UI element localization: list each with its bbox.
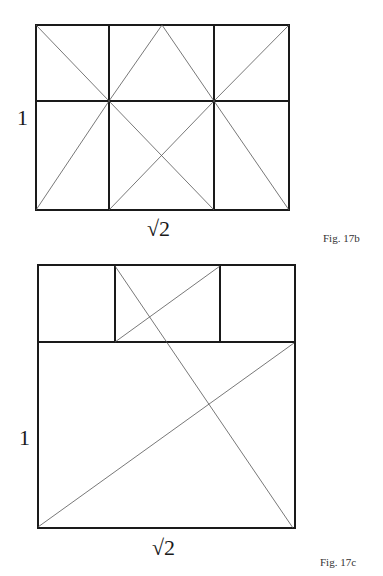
- diagonal-line: [115, 266, 220, 342]
- figure-17c: [38, 265, 295, 528]
- fig-17c-caption: Fig. 17c: [320, 557, 356, 568]
- diagonal-line: [36, 25, 109, 101]
- diagonal-line: [115, 266, 293, 528]
- fig-17b-bottom-label: √2: [147, 218, 170, 240]
- diagonal-line: [162, 25, 214, 101]
- fig-17c-side-label: 1: [19, 427, 30, 449]
- diagonal-line: [38, 343, 294, 527]
- diagonal-line: [214, 101, 289, 210]
- fig-17b-side-label: 1: [17, 107, 28, 129]
- fig-17b-caption: Fig. 17b: [323, 233, 360, 244]
- diagonal-line: [36, 101, 109, 210]
- figure-17b: [36, 25, 289, 210]
- diagonal-line: [214, 25, 289, 101]
- proportion-diagrams-canvas: [0, 0, 383, 576]
- fig-17c-bottom-label: √2: [152, 537, 175, 559]
- diagonal-line: [109, 25, 162, 101]
- outer-rectangle: [36, 25, 289, 210]
